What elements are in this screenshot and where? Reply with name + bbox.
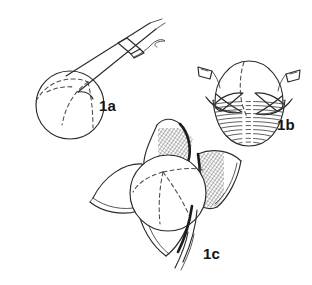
left-wing-1b [198,67,220,88]
panel-label-1c: 1c [203,246,220,261]
stalk-sheath-node-1a [118,38,144,58]
bud-sphere-1a [36,71,104,139]
botanical-line-drawing [0,0,312,285]
central-sphere-1c [130,155,206,231]
panel-label-1b: 1b [277,117,295,132]
panel-label-1a: 1a [99,98,116,113]
panel-1a-drawing [36,19,165,139]
figure-canvas: 1a 1b 1c [0,0,312,285]
panel-1b-drawing [198,61,300,150]
